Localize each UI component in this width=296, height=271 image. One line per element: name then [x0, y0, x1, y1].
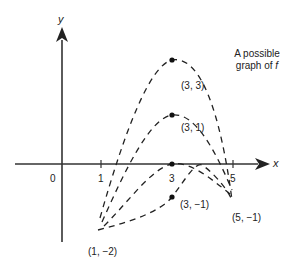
y-axis-label: y: [58, 14, 64, 25]
caption-prefix: graph of: [236, 60, 275, 71]
point-3-3: [169, 57, 174, 62]
point-label-3-neg1: (3, −1): [180, 200, 209, 210]
curve-max-neg1: [98, 165, 232, 230]
caption-line-2: graph of f: [226, 60, 288, 72]
curve-max-3: [100, 60, 232, 218]
point-label-3-3: (3, 3): [181, 81, 204, 91]
graph-caption: A possible graph of f: [226, 48, 288, 72]
caption-line-1: A possible: [226, 48, 288, 60]
curve-max-1: [102, 115, 232, 222]
point-3-neg1: [169, 194, 174, 199]
caption-function-name: f: [275, 60, 278, 71]
tick-label-3: 3: [169, 174, 175, 184]
tick-label-origin: 0: [50, 174, 56, 184]
point-label-1-neg2: (1, −2): [88, 247, 117, 257]
point-3-0: [169, 161, 174, 166]
point-label-3-1: (3, 1): [181, 123, 204, 133]
graph-canvas: [0, 0, 296, 271]
point-label-5-neg1: (5, −1): [232, 213, 261, 223]
x-axis-label: x: [273, 158, 279, 169]
tick-label-1: 1: [98, 174, 104, 184]
tick-label-5: 5: [230, 174, 236, 184]
point-3-1: [169, 112, 174, 117]
y-axis-arrow-icon: [56, 27, 68, 42]
